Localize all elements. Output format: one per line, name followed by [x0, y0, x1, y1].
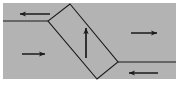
fault-diagram: Reverse fault block diagram [0, 0, 181, 96]
fault-diagram-container: Reverse fault block diagram [0, 0, 181, 96]
